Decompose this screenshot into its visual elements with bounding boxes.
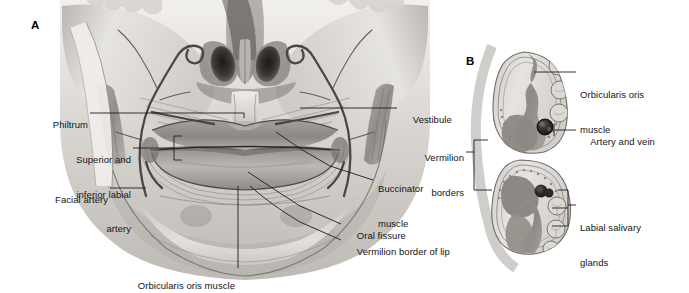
label-facial-artery: Facial artery (8, 182, 108, 217)
label-labial-salivary-glands-line-1: Labial salivary (580, 222, 685, 234)
upper-lip-cross-section (493, 52, 569, 153)
label-vermilion-borders-line-1: Vermilion (396, 152, 464, 164)
panel-b-illustration (476, 46, 571, 268)
label-vermilion-border-of-lip: Vermilion border of lip (346, 234, 476, 269)
label-artery-and-vein-line-1: Artery and vein (590, 136, 655, 147)
label-vermilion-border-of-lip-line-1: Vermilion border of lip (357, 246, 450, 257)
label-orbicularis-oris-muscle-panel-a-line-1: Orbicularis oris muscle (138, 280, 235, 291)
label-philtrum-line-1: Philtrum (53, 119, 88, 130)
label-orbicularis-oris-muscle-panel-a: Orbicularis oris muscle (127, 268, 277, 293)
label-orbicularis-oris-muscle-panel-b-line-1: Orbicularis oris (580, 89, 685, 101)
label-facial-artery-line-1: Facial artery (55, 194, 108, 205)
label-superior-inferior-labial-artery-line-1: Superior and (8, 154, 131, 166)
panel-letter-a: A (31, 19, 40, 31)
label-labial-salivary-glands: Labial salivary glands (580, 199, 685, 291)
label-artery-and-vein: Artery and vein (580, 124, 685, 159)
label-vestibule-line-1: Vestibule (413, 114, 452, 125)
label-labial-salivary-glands-line-2: glands (580, 257, 685, 269)
lower-lip-cross-section (492, 160, 571, 257)
label-superior-inferior-labial-artery-line-3: artery (8, 223, 131, 235)
label-vermilion-borders-line-2: borders (396, 187, 464, 199)
label-vermilion-borders: Vermilion borders (396, 129, 464, 221)
panel-letter-b: B (466, 55, 475, 67)
